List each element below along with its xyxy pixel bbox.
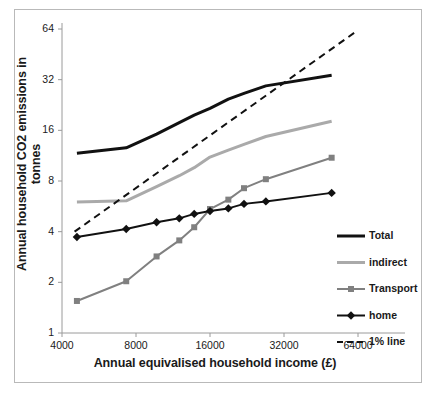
data-point-marker (175, 214, 183, 222)
x-tick-label: 4000 (32, 339, 92, 351)
data-series (73, 30, 358, 304)
legend-label-home: home (369, 309, 397, 321)
data-point-marker (329, 155, 335, 161)
data-point-marker (191, 224, 197, 230)
x-tick-label: 32000 (254, 339, 314, 351)
data-point-marker (190, 210, 198, 218)
x-tick-label: 16000 (180, 339, 240, 351)
data-point-marker (224, 204, 232, 212)
data-point-marker (240, 200, 248, 208)
data-point-marker (327, 189, 335, 197)
data-point-marker (73, 233, 81, 241)
y-tick-label: 64 (14, 22, 54, 34)
legend-label-total: Total (369, 229, 393, 241)
data-point-marker (225, 197, 231, 203)
data-point-marker (241, 185, 247, 191)
legend-marker (347, 311, 355, 319)
legend-marker (348, 286, 354, 292)
legend-swatches (337, 236, 365, 342)
chart-figure: 1248163264 40008000160003200064000 Total… (0, 0, 436, 400)
series-line-1-line (75, 30, 358, 232)
legend-label-indirect: indirect (369, 256, 407, 268)
y-tick-label: 1 (14, 326, 54, 338)
x-axis-title: Annual equivalised household income (£) (40, 356, 390, 370)
data-point-marker (262, 197, 270, 205)
x-tick-label: 8000 (106, 339, 166, 351)
data-point-marker (152, 218, 160, 226)
y-axis-title: Annual household CO2 emissions in tonnes (15, 39, 43, 289)
legend-label-1-line: 1% line (369, 335, 405, 347)
data-point-marker (122, 225, 130, 233)
series-line-transport (77, 158, 332, 301)
data-point-marker (154, 253, 160, 259)
series-line-indirect (77, 121, 332, 202)
series-line-total (77, 75, 332, 153)
data-point-marker (123, 278, 129, 284)
data-point-marker (263, 176, 269, 182)
data-point-marker (176, 237, 182, 243)
legend-label-transport: Transport (369, 282, 417, 294)
data-point-marker (74, 298, 80, 304)
